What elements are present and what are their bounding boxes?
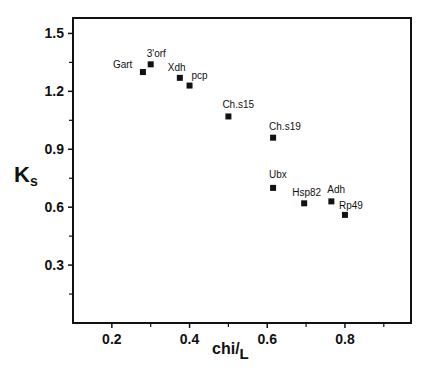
y-tick-label: 0.9 xyxy=(45,141,65,157)
point-label: pcp xyxy=(192,70,209,81)
square-marker-icon xyxy=(148,61,154,67)
square-marker-icon xyxy=(328,198,334,204)
point-label: Gart xyxy=(113,59,133,70)
x-tick-label: 0.8 xyxy=(335,331,355,347)
y-axis: 0.30.60.91.21.5 xyxy=(45,25,73,294)
data-point: Ch.s15 xyxy=(222,99,254,119)
y-axis-title: Ks xyxy=(14,162,38,189)
data-points: Gart3'orfXdhpcpCh.s15Ch.s19UbxHsp82AdhRp… xyxy=(113,48,363,218)
point-label: Hsp82 xyxy=(292,187,321,198)
point-label: Ubx xyxy=(269,169,287,180)
scatter-chart: 0.20.40.60.8 0.30.60.91.21.5 Gart3'orfXd… xyxy=(0,0,428,376)
x-tick-label: 0.4 xyxy=(180,331,200,347)
y-tick-label: 0.6 xyxy=(45,199,65,215)
data-point: Xdh xyxy=(168,62,186,81)
x-tick-label: 0.6 xyxy=(258,331,278,347)
square-marker-icon xyxy=(187,83,193,89)
data-point: Hsp82 xyxy=(292,187,321,206)
y-tick-label: 0.3 xyxy=(45,257,65,273)
square-marker-icon xyxy=(270,185,276,191)
x-axis-title: chi/L xyxy=(212,340,249,362)
y-tick-label: 1.5 xyxy=(45,25,65,41)
point-label: Xdh xyxy=(168,62,186,73)
square-marker-icon xyxy=(140,69,146,75)
data-point: Ch.s19 xyxy=(269,121,301,141)
point-label: Ch.s15 xyxy=(222,99,254,110)
point-label: Adh xyxy=(327,184,345,195)
point-label: Rp49 xyxy=(339,200,363,211)
point-label: 3'orf xyxy=(147,48,166,59)
y-tick-label: 1.2 xyxy=(45,83,65,99)
data-point: pcp xyxy=(187,70,209,89)
x-axis: 0.20.40.60.8 xyxy=(102,323,384,347)
data-point: Gart xyxy=(113,59,146,75)
data-point: Ubx xyxy=(269,169,287,191)
square-marker-icon xyxy=(225,113,231,119)
square-marker-icon xyxy=(270,135,276,141)
square-marker-icon xyxy=(342,212,348,218)
x-tick-label: 0.2 xyxy=(102,331,122,347)
point-label: Ch.s19 xyxy=(269,121,301,132)
square-marker-icon xyxy=(177,75,183,81)
data-point: 3'orf xyxy=(147,48,166,67)
square-marker-icon xyxy=(301,200,307,206)
data-point: Rp49 xyxy=(339,200,363,218)
